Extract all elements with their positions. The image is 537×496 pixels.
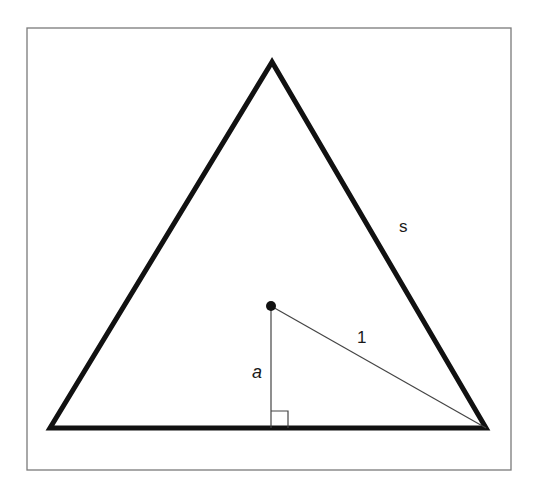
equilateral-triangle xyxy=(50,62,486,428)
side-label: s xyxy=(399,217,408,236)
radius-line xyxy=(271,306,486,428)
right-angle-marker xyxy=(271,411,288,428)
center-point xyxy=(266,301,276,311)
triangle-diagram: s 1 a xyxy=(0,0,537,496)
apothem-label: a xyxy=(252,362,262,382)
radius-label: 1 xyxy=(357,328,366,347)
diagram-canvas: s 1 a xyxy=(0,0,537,496)
figure-frame xyxy=(27,28,511,470)
